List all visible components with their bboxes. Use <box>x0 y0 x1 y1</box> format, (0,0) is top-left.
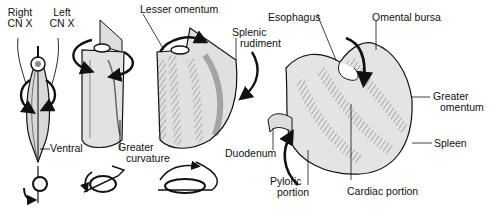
label-greater-omentum-line2: omentum <box>433 102 484 113</box>
label-left-cn-x: Left CN X <box>49 7 75 29</box>
label-right-cn-x-line2: CN X <box>7 18 33 29</box>
label-ventral: Ventral <box>50 143 83 154</box>
label-greater-curvature-line2: curvature <box>118 153 170 164</box>
stomach-rotation-diagram: Right CN X Left CN X Ventral Greater cur… <box>0 0 489 215</box>
label-spleen: Spleen <box>434 138 467 149</box>
label-pyloric-portion: Pyloric portion <box>270 176 309 198</box>
label-splenic-rudiment-line2: rudiment <box>232 38 281 49</box>
label-duodenum: Duodenum <box>225 148 276 159</box>
label-left-cn-x-line2: CN X <box>49 18 75 29</box>
label-cardiac-portion: Cardiac portion <box>347 186 418 197</box>
cross-section-1 <box>24 166 47 203</box>
label-pyloric-portion-line2: portion <box>270 187 309 198</box>
stage-2-stomach <box>73 20 133 150</box>
stage-4-stomach <box>268 14 432 185</box>
label-splenic-rudiment: Splenic rudiment <box>232 27 281 49</box>
label-greater-curvature: Greater curvature <box>118 142 170 164</box>
label-omental-bursa: Omental bursa <box>372 12 441 23</box>
cross-section-2 <box>84 166 124 192</box>
label-greater-omentum: Greater omentum <box>433 91 484 113</box>
label-esophagus: Esophagus <box>268 12 321 23</box>
label-right-cn-x: Right CN X <box>7 7 33 29</box>
cross-section-3 <box>158 162 217 193</box>
label-lesser-omentum: Lesser omentum <box>140 4 218 15</box>
